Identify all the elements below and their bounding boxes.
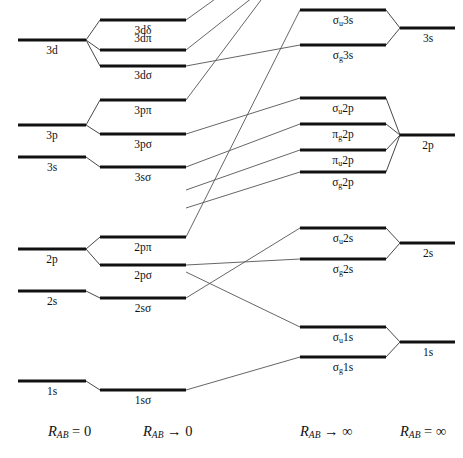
level-label-smo-su2s: σu2s — [310, 233, 376, 246]
level-label-smo-pu2p: πu2p — [310, 155, 376, 168]
level-label-umo-3ppi: 3pπ — [110, 105, 176, 117]
level-label-sa-1s: 1s — [408, 347, 448, 359]
axis-label-separated-atom: RAB = ∞ — [400, 424, 446, 441]
level-label-umo-3ssigma: 3sσ — [110, 172, 176, 184]
axis-label-united-atom: RAB = 0 — [48, 424, 91, 441]
level-label-sa-2p: 2p — [408, 140, 448, 152]
level-label-umo-3dsigma: 3dσ — [110, 70, 176, 82]
level-label-smo-su2p: σu2p — [310, 103, 376, 116]
level-label-ua-2p: 2p — [32, 254, 72, 266]
level-label-umo-3psigma: 3pσ — [110, 139, 176, 151]
level-label-umo-2ppi: 2pπ — [110, 242, 176, 254]
level-label-smo-pg2p: πg2p — [310, 129, 376, 142]
level-label-umo-3dpi: 3dπ — [110, 33, 176, 45]
level-label-smo-sg2p: σg2p — [310, 177, 376, 190]
axis-label-separated-mo: RAB → ∞ — [300, 424, 353, 441]
level-label-smo-sg2s: σg2s — [310, 264, 376, 277]
level-label-smo-sg1s: σg1s — [310, 362, 376, 375]
level-label-sa-2s: 2s — [408, 248, 448, 260]
axis-label-united-mo: RAB → 0 — [143, 424, 192, 441]
level-label-ua-1s: 1s — [32, 386, 72, 398]
level-label-umo-1ssigma: 1sσ — [110, 395, 176, 407]
level-label-sa-3s: 3s — [408, 33, 448, 45]
level-label-ua-3d: 3d — [32, 45, 72, 57]
level-label-ua-2s: 2s — [32, 296, 72, 308]
level-label-ua-3s: 3s — [32, 162, 72, 174]
level-label-umo-2ssigma: 2sσ — [110, 303, 176, 315]
level-label-smo-su3s: σu3s — [310, 15, 376, 28]
level-label-smo-sg3s: σg3s — [310, 50, 376, 63]
level-label-ua-3p: 3p — [32, 130, 72, 142]
level-label-umo-2psigma: 2pσ — [110, 270, 176, 282]
level-label-smo-su1s: σu1s — [310, 332, 376, 345]
